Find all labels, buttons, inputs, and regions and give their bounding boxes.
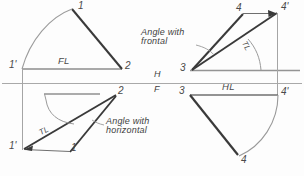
point-label-4prime-bottom-right: 4' bbox=[281, 87, 288, 98]
point-label-1-bottom-left: 1 bbox=[71, 143, 77, 154]
point-label-3-top-right: 3 bbox=[180, 63, 186, 74]
annotation-angle-with-frontal: Angle with frontal bbox=[141, 28, 185, 47]
descriptive-geometry-figure: 1 1' 2 FL 1' 1 2 TL Angle with horizonta… bbox=[0, 0, 304, 176]
label-hl: HL bbox=[222, 82, 235, 92]
revolution-arc-bottom-right bbox=[239, 95, 278, 156]
fold-line-label-h: H bbox=[154, 70, 161, 79]
point-label-2-top-left: 2 bbox=[125, 61, 131, 72]
point-label-3-bottom-right: 3 bbox=[179, 86, 185, 97]
label-fl: FL bbox=[58, 56, 70, 66]
angle-tick-bottom-left bbox=[45, 94, 47, 100]
point-label-4-bottom-right: 4 bbox=[241, 155, 247, 166]
point-label-2-bottom-left: 2 bbox=[118, 86, 124, 97]
angle-arc-horizontal bbox=[46, 100, 74, 124]
point-label-4-top-right: 4 bbox=[236, 3, 242, 14]
true-length-line-3-4prime bbox=[192, 13, 277, 70]
annotation-angle-with-horizontal: Angle with horizontal bbox=[106, 117, 150, 136]
line-3-4-bottom-right bbox=[190, 95, 238, 155]
point-label-4prime-top-right: 4' bbox=[281, 2, 288, 13]
point-label-1prime-bottom-left: 1' bbox=[9, 141, 16, 152]
true-length-line-bottom-left bbox=[24, 95, 116, 149]
revolved-line-1-2-top-left bbox=[72, 9, 122, 69]
fold-line-label-f: F bbox=[154, 85, 160, 94]
point-label-1-top-left: 1 bbox=[78, 1, 84, 12]
point-label-1prime-top-left: 1' bbox=[9, 60, 16, 71]
